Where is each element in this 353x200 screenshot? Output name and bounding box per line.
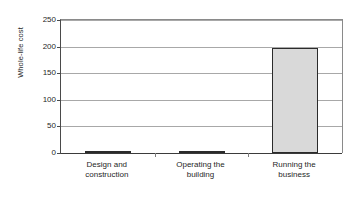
y-tick-label: 0: [16, 148, 56, 157]
bar: [179, 151, 225, 153]
x-category-label-line: Operating the: [154, 160, 248, 170]
y-tick-mark: [57, 100, 61, 101]
y-tick-mark: [57, 20, 61, 21]
x-category-label: Design andconstruction: [60, 160, 154, 180]
category-separator: [248, 153, 249, 157]
y-tick-label: 150: [16, 68, 56, 77]
plot-area: [60, 19, 343, 153]
bar: [85, 151, 131, 153]
y-tick-label: 100: [16, 94, 56, 103]
x-category-label-line: Design and: [60, 160, 154, 170]
x-category-label-line: construction: [60, 170, 154, 180]
y-tick-mark: [57, 47, 61, 48]
bar-chart: Whole-life cost 050100150200250 Design a…: [0, 0, 353, 200]
y-tick-label: 250: [16, 15, 56, 24]
x-category-label-line: Running the: [247, 160, 341, 170]
gridline: [61, 20, 342, 21]
y-tick-mark: [57, 153, 61, 154]
category-separator: [155, 153, 156, 157]
y-tick-mark: [57, 126, 61, 127]
y-tick-mark: [57, 73, 61, 74]
x-category-label-line: building: [154, 170, 248, 180]
x-category-label: Operating thebuilding: [154, 160, 248, 180]
y-tick-label: 200: [16, 41, 56, 50]
bar: [272, 48, 318, 153]
x-category-label-line: business: [247, 170, 341, 180]
x-category-label: Running thebusiness: [247, 160, 341, 180]
y-tick-label: 50: [16, 121, 56, 130]
axis-baseline: [61, 153, 342, 154]
